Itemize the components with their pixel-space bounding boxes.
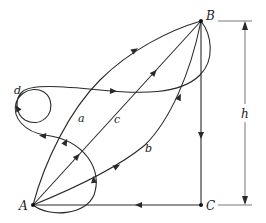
arrow-icon [110, 88, 117, 94]
point-a-marker [31, 203, 35, 207]
point-b-label: B [205, 9, 215, 23]
dimension-label-h: h [241, 107, 249, 121]
path-c-label: c [114, 113, 120, 126]
point-c-label: C [206, 199, 215, 213]
work-path-diagram: h A B C a b c d [0, 0, 266, 223]
point-b-marker [199, 19, 203, 23]
path-d [13, 21, 210, 213]
path-b-label: b [145, 142, 152, 155]
point-c-marker [199, 203, 203, 207]
path-a-label: a [78, 112, 85, 125]
arrow-up-icon [242, 21, 248, 30]
path-b-to-c [198, 21, 204, 205]
point-a-label: A [18, 199, 28, 213]
path-c-to-a [33, 202, 201, 208]
arrow-down-icon [242, 196, 248, 205]
arrow-icon [198, 132, 204, 139]
arrow-icon [39, 132, 46, 139]
path-d-label: d [14, 84, 21, 97]
height-dimension: h [218, 21, 252, 205]
arrow-icon [135, 202, 142, 208]
